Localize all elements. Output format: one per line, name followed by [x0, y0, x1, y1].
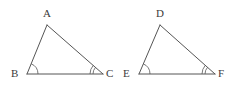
- vertex-label-b: B: [11, 68, 18, 79]
- segment-df: [160, 25, 215, 74]
- geometry-figure: ABCDEF: [0, 0, 234, 88]
- figure-canvas: [0, 0, 234, 88]
- segment-ac: [47, 25, 103, 74]
- segment-de: [139, 25, 160, 74]
- angle-arcs-layer: [31, 64, 207, 74]
- segment-ab: [27, 25, 47, 74]
- angle-arc-b-ring-1: [31, 64, 38, 74]
- vertex-label-e: E: [123, 68, 130, 79]
- angle-arc-c-ring-1: [93, 67, 95, 74]
- angle-arc-e-ring-1: [143, 64, 150, 74]
- edges-layer: [27, 25, 215, 74]
- vertex-label-a: A: [43, 8, 51, 19]
- vertex-label-c: C: [106, 68, 113, 79]
- vertex-label-f: F: [218, 68, 224, 79]
- angle-arc-f-ring-1: [205, 67, 208, 74]
- vertex-label-d: D: [156, 8, 164, 19]
